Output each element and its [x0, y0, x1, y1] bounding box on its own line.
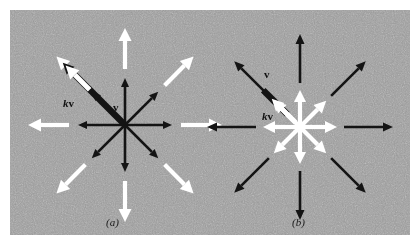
vector-arrow-outer-b-0	[344, 123, 393, 132]
label-vector-v: v	[69, 97, 75, 109]
vector-arrow-inner-a-0-head	[163, 121, 172, 129]
vector-arrow-outer-b-315-shaft	[331, 158, 359, 186]
vector-arrow-outer-a-315-shaft	[165, 165, 185, 185]
vector-arrow-inner-b-180-head	[263, 121, 275, 133]
vector-arrow-inner-b-270-head	[294, 152, 306, 164]
vector-arrow-outer-a-45-shaft	[165, 66, 185, 86]
vector-kv-overlay-a	[66, 66, 90, 90]
vector-arrow-inner-b-90-head	[294, 90, 306, 102]
vector-arrow-outer-a-45	[165, 56, 194, 85]
label-kv-panel-b: kv	[262, 110, 273, 122]
label-v-panel-a: v	[113, 101, 119, 113]
vector-arrow-inner-a-315-shaft	[125, 125, 152, 152]
vector-kv-overlay-a-shaft	[75, 75, 90, 90]
label-vector-v: v	[113, 101, 119, 113]
vector-arrow-inner-a-45-shaft	[125, 98, 152, 125]
label-v-panel-b: v	[264, 68, 270, 80]
vector-arrow-inner-b-0-head	[325, 121, 337, 133]
vector-arrow-inner-a-315	[125, 125, 158, 158]
vector-arrow-outer-b-45	[331, 61, 366, 96]
vector-arrow-outer-a-90-head	[119, 28, 132, 41]
figure-root: (a) (b) kv v v kv	[0, 0, 420, 250]
vector-arrow-inner-a-270-head	[121, 163, 129, 172]
vector-arrow-outer-a-90	[119, 28, 132, 69]
label-kv-panel-a: kv	[63, 97, 74, 109]
vector-arrow-inner-a-270	[121, 125, 129, 172]
vector-arrow-inner-b-315-shaft	[300, 127, 318, 145]
vector-arrow-inner-a-0	[125, 121, 172, 129]
vector-arrow-inner-b-225-shaft	[282, 127, 300, 145]
vector-arrow-inner-a-135-shaft	[98, 98, 125, 125]
vector-arrow-inner-a-225	[92, 125, 125, 158]
vector-arrow-outer-a-180-head	[28, 119, 41, 132]
vector-arrow-outer-b-90-head	[296, 34, 305, 44]
panel-caption-a: (a)	[106, 216, 119, 228]
vector-kv-overlay-b	[272, 99, 296, 123]
vector-arrow-outer-a-270-head	[119, 209, 132, 222]
vector-arrow-inner-b-225	[274, 127, 300, 153]
label-vector-v: v	[264, 68, 270, 80]
vector-arrow-outer-a-270	[119, 181, 132, 222]
vector-arrow-outer-b-225-shaft	[241, 158, 269, 186]
vector-star-canvas	[0, 0, 420, 250]
vector-arrow-inner-a-90-head	[121, 78, 129, 87]
vector-arrow-outer-a-180	[28, 119, 69, 132]
vector-arrow-outer-b-225	[234, 158, 269, 193]
vector-arrow-outer-b-270	[296, 171, 305, 220]
vector-arrow-inner-a-135	[92, 92, 125, 125]
vector-arrow-outer-b-0-head	[383, 123, 393, 132]
vector-arrow-outer-b-180	[207, 123, 256, 132]
vector-arrow-inner-b-45-shaft	[300, 109, 318, 127]
vector-arrow-outer-b-315	[331, 158, 366, 193]
vector-arrow-outer-b-90	[296, 34, 305, 83]
panel-caption-b: (b)	[292, 216, 305, 228]
vector-arrow-inner-a-180-head	[78, 121, 87, 129]
vector-arrow-outer-a-225-shaft	[66, 165, 86, 185]
label-vector-v: v	[268, 110, 274, 122]
vector-arrow-outer-a-225	[56, 165, 85, 194]
vector-arrow-inner-b-45	[300, 101, 326, 127]
vector-arrow-inner-b-315	[300, 127, 326, 153]
vector-arrow-inner-a-45	[125, 92, 158, 125]
vector-arrow-outer-a-315	[165, 165, 194, 194]
vector-arrow-outer-b-45-shaft	[331, 68, 359, 96]
vector-kv-overlay-b-shaft	[280, 107, 296, 123]
vector-arrow-inner-a-225-shaft	[98, 125, 125, 152]
